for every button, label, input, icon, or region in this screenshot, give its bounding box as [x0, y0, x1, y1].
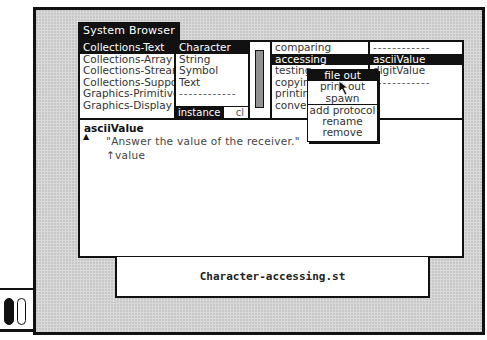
category-item[interactable]: Collections-Text: [80, 42, 174, 54]
class-item[interactable]: Symbol: [176, 65, 248, 77]
class-separator: ------------: [176, 88, 248, 100]
code-pane[interactable]: asciiValue ▲ "Answer the value of the re…: [80, 120, 462, 256]
method-separator: ------------: [370, 77, 462, 89]
scrollbar-pane: [250, 42, 272, 118]
class-item[interactable]: Character: [176, 42, 248, 54]
method-body: ↑value: [84, 148, 458, 162]
method-item[interactable]: digitValue: [370, 65, 462, 77]
instance-class-switch: instance cl: [176, 106, 250, 118]
category-item[interactable]: Graphics-Primitives: [80, 88, 174, 100]
class-switch[interactable]: cl: [226, 107, 248, 118]
toggle-on-icon[interactable]: [4, 298, 14, 325]
method-selector: asciiValue: [84, 122, 458, 134]
toggle-off-icon[interactable]: [17, 298, 26, 325]
mouse-pointer-icon: [338, 80, 350, 96]
menu-item-remove[interactable]: remove: [308, 127, 377, 138]
text-caret-icon: ▲: [83, 132, 89, 141]
scrollbar-thumb[interactable]: [255, 50, 264, 108]
window-title-tab[interactable]: System Browser: [78, 22, 180, 40]
system-browser-window: Collections-Text Collections-Array Colle…: [78, 40, 464, 258]
method-pane[interactable]: ------------ asciiValue digitValue -----…: [370, 42, 462, 118]
category-item[interactable]: Graphics-Display: [80, 100, 174, 112]
file-window[interactable]: Character-accessing.st: [115, 257, 430, 298]
method-separator: ------------: [370, 42, 462, 54]
mode-toggle-panel: [0, 288, 35, 332]
category-pane[interactable]: Collections-Text Collections-Array Colle…: [80, 42, 176, 118]
class-pane[interactable]: Character String Symbol Text -----------…: [176, 42, 250, 118]
method-comment: "Answer the value of the receiver.": [84, 134, 458, 148]
instance-switch[interactable]: instance: [176, 107, 224, 118]
category-item[interactable]: Collections-Streams: [80, 65, 174, 77]
protocol-item[interactable]: comparing: [272, 42, 368, 54]
